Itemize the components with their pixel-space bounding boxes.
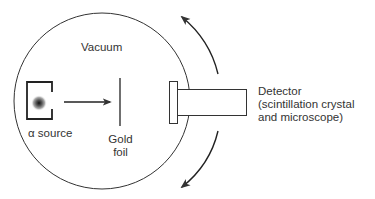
gold-foil-label-line2: foil <box>104 146 137 159</box>
gold-foil-label: Gold foil <box>104 133 137 159</box>
rotation-arrow-up-icon <box>182 17 218 74</box>
rotation-arrow-down-icon <box>182 131 218 187</box>
detector-tube <box>178 90 247 116</box>
alpha-source-label: α source <box>28 127 72 140</box>
detector-flange <box>170 82 178 124</box>
detector-icon <box>170 82 247 124</box>
detector-label: Detector (scintillation crystal and micr… <box>258 85 355 124</box>
gold-foil-label-line1: Gold <box>104 133 137 146</box>
vacuum-label: Vacuum <box>81 41 122 54</box>
detector-label-line3: and microscope) <box>258 111 355 124</box>
detector-label-line2: (scintillation crystal <box>258 98 355 111</box>
detector-label-line1: Detector <box>258 85 355 98</box>
alpha-source-icon <box>31 95 47 111</box>
